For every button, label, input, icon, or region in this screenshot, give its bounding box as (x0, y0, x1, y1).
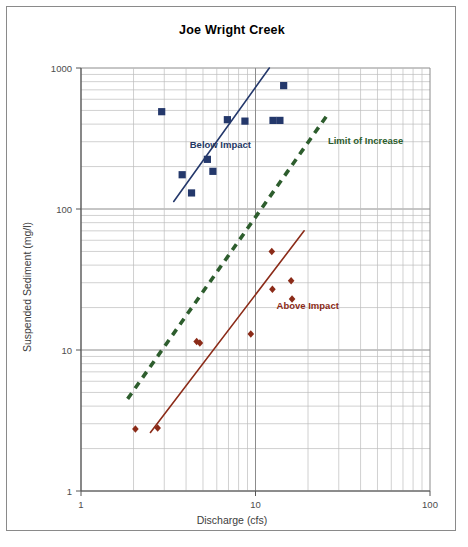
series-annotation-label: Limit of Increase (328, 135, 404, 146)
data-point-marker (224, 116, 231, 123)
data-points (132, 82, 295, 433)
chart-frame: Joe Wright Creek 1101001000110100 Below … (6, 6, 456, 531)
y-axis-title: Suspended Sediment (mg/l) (21, 222, 33, 352)
data-point-marker (288, 277, 295, 285)
axis-ticks (76, 68, 430, 496)
x-tick-label: 100 (422, 499, 438, 510)
data-point-marker (158, 108, 165, 115)
data-point-marker (188, 189, 195, 196)
y-tick-label: 1000 (51, 63, 72, 74)
axis-tick-labels: 1101001000110100 (51, 63, 438, 511)
data-point-marker (179, 171, 186, 178)
chart-plot-area: 1101001000110100 Below ImpactAbove Impac… (7, 7, 457, 532)
trend-line (174, 68, 270, 202)
data-point-marker (248, 330, 255, 338)
series-annotation-label: Below Impact (190, 139, 252, 150)
x-tick-label: 1 (78, 499, 83, 510)
x-axis-title: Discharge (cfs) (197, 514, 268, 526)
data-point-marker (269, 248, 276, 256)
data-point-marker (204, 156, 211, 163)
y-tick-label: 1 (67, 486, 72, 497)
y-tick-label: 10 (61, 345, 72, 356)
x-tick-label: 10 (250, 499, 261, 510)
y-tick-label: 100 (56, 204, 72, 215)
data-point-marker (280, 82, 287, 89)
data-point-marker (241, 118, 248, 125)
series-annotation-label: Above Impact (277, 300, 340, 311)
data-point-marker (132, 425, 139, 433)
data-point-marker (209, 168, 216, 175)
grid-lines (81, 68, 430, 491)
data-point-marker (269, 117, 276, 124)
data-point-marker (269, 285, 276, 293)
data-point-marker (276, 117, 283, 124)
